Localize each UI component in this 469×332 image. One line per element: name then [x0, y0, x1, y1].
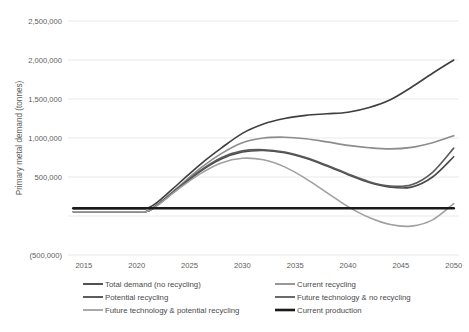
legend-label: Potential recycling — [105, 293, 168, 302]
x-tick-label: 2050 — [445, 261, 462, 270]
legend-label: Future technology & no recycling — [297, 293, 411, 302]
x-tick-label: 2045 — [392, 261, 409, 270]
x-tick-label: 2015 — [75, 261, 92, 270]
x-tick-label: 2030 — [234, 261, 251, 270]
y-tick-label: 2,500,000 — [28, 17, 62, 26]
legend-label: Current recycling — [297, 280, 356, 289]
legend-label: Future technology & potential recycling — [105, 306, 239, 315]
y-tick-label: 500,000 — [35, 173, 62, 182]
line-chart: (500,000)500,0001,000,0001,500,0002,000,… — [0, 0, 469, 332]
x-tick-label: 2040 — [340, 261, 357, 270]
chart-background — [0, 0, 469, 332]
y-tick-label: 2,000,000 — [28, 56, 62, 65]
x-tick-label: 2020 — [128, 261, 145, 270]
x-tick-label: 2025 — [181, 261, 198, 270]
legend-label: Total demand (no recycling) — [105, 280, 201, 289]
y-tick-label: 1,500,000 — [28, 95, 62, 104]
y-tick-label: (500,000) — [29, 251, 62, 260]
y-tick-label: 1,000,000 — [28, 134, 62, 143]
legend-item[interactable]: Future technology & potential recycling — [83, 306, 239, 315]
chart-container: (500,000)500,0001,000,0001,500,0002,000,… — [0, 0, 469, 332]
y-axis-title: Primary metal demand (tonnes) — [15, 80, 24, 195]
x-tick-label: 2035 — [287, 261, 304, 270]
legend-label: Current production — [297, 306, 362, 315]
